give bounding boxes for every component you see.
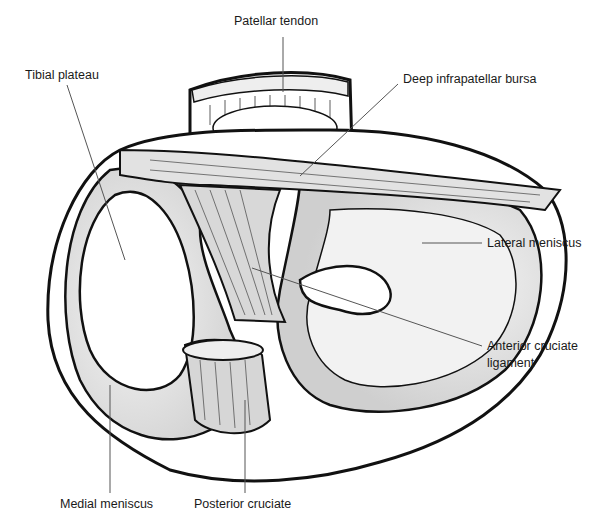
label-anterior-cruciate-line2: ligament bbox=[487, 356, 534, 371]
label-tibial-plateau: Tibial plateau bbox=[25, 68, 99, 83]
label-lateral-meniscus: Lateral meniscus bbox=[487, 236, 582, 251]
label-deep-infrapatellar-bursa: Deep infrapatellar bursa bbox=[403, 72, 536, 87]
label-posterior-cruciate: Posterior cruciate bbox=[194, 497, 291, 512]
label-medial-meniscus: Medial meniscus bbox=[60, 497, 153, 512]
posterior-cruciate-shape bbox=[183, 340, 270, 433]
label-patellar-tendon: Patellar tendon bbox=[234, 14, 318, 29]
anatomy-figure: Patellar tendon Tibial plateau Deep infr… bbox=[0, 0, 602, 524]
label-anterior-cruciate-line1: Anterior cruciate bbox=[487, 339, 578, 354]
